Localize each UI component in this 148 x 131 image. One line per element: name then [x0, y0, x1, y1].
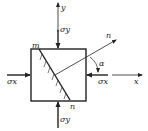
- angle-alpha-label: α: [99, 59, 105, 68]
- sigma-y-top-label: σy: [60, 25, 70, 34]
- stress-element-diagram: y σy σy σx σx x m n n α: [0, 0, 148, 131]
- angle-alpha-arc: [90, 57, 98, 72]
- section-hatching: [40, 54, 66, 99]
- sigma-y-bottom-label: σy: [60, 115, 70, 124]
- y-axis-label: y: [60, 3, 66, 12]
- section-label-m: m: [32, 41, 40, 50]
- sigma-x-right-label: σx: [98, 77, 108, 86]
- sigma-x-left-label: σx: [7, 77, 17, 86]
- x-axis-label: x: [134, 77, 139, 86]
- inclined-section-line: [39, 49, 70, 100]
- stress-element-box: [31, 49, 86, 101]
- section-label-n: n: [70, 102, 75, 111]
- normal-label: n: [106, 31, 111, 40]
